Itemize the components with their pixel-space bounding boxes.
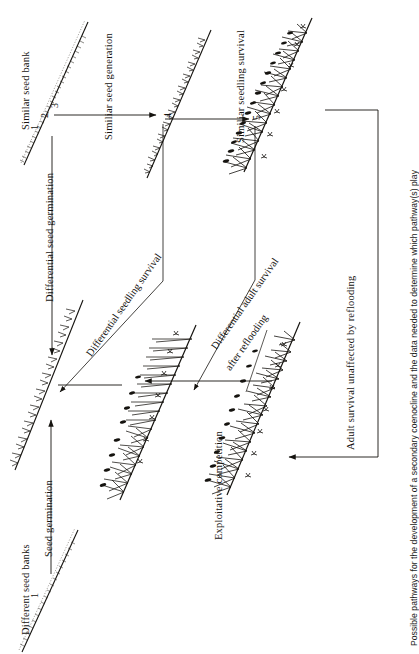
- stage-number-5: 5: [251, 115, 262, 120]
- stage-number-bottom-1: 1: [29, 593, 40, 598]
- label-adult-survival-unaffected: Adult survival unaffected by reflooding: [345, 276, 356, 450]
- stage-number-2: 2: [39, 113, 50, 118]
- label-similar-seed-generation: Similiar seed generation: [103, 33, 114, 140]
- stage-number-3: 3: [49, 103, 60, 108]
- stage-number-4: 4: [162, 113, 173, 118]
- label-similar-seedling-survival: Similiar seedling survival: [235, 30, 246, 143]
- label-differential-seed-germination: Differential seed germination: [44, 173, 55, 302]
- label-similar-seed-bank: Similar seed bank: [20, 51, 31, 130]
- panel-competition-adults: [99, 325, 196, 500]
- figure-caption: Possible pathways for the development of…: [409, 170, 419, 646]
- label-exploitative-competition: Exploitative competition: [213, 431, 224, 540]
- panel-differential-seedlings: [10, 300, 83, 470]
- label-seed-germination: Seed germination: [43, 480, 54, 557]
- stage-number-1: 1: [29, 125, 40, 130]
- panel-similar-seedlings: [144, 30, 211, 178]
- label-different-seed-banks: Different seed banks: [20, 544, 31, 635]
